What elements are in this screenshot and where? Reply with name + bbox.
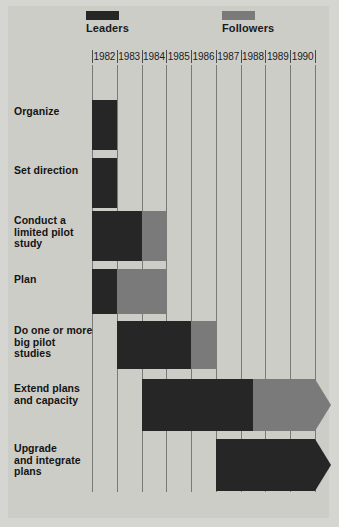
legend-swatch-followers — [222, 11, 255, 20]
bar-segment-leaders — [216, 439, 315, 491]
task-bar-row — [92, 158, 339, 208]
year-label-1988: 1988 — [241, 48, 266, 65]
task-label: Extend plans and capacity — [14, 383, 80, 406]
year-label-1986: 1986 — [191, 48, 216, 65]
bar-arrow-head — [315, 379, 331, 431]
year-tick — [241, 50, 242, 63]
year-label-1984: 1984 — [142, 48, 167, 65]
bar-segment-leaders — [142, 379, 254, 431]
task-bar-row — [92, 269, 339, 314]
bar-segment-leaders — [92, 158, 117, 208]
task-label: Conduct a limited pilot study — [14, 215, 74, 250]
task-bar-row — [92, 439, 339, 491]
year-tick — [191, 50, 192, 63]
task-label: Set direction — [14, 165, 78, 177]
year-label-1983: 1983 — [117, 48, 142, 65]
year-label-1990: 1990 — [290, 48, 315, 65]
task-bar-row — [92, 379, 339, 431]
task-label: Plan — [14, 274, 36, 286]
gantt-chart: Leaders Followers 1982198319841985198619… — [0, 0, 339, 527]
task-bar-row — [92, 211, 339, 261]
bar-segment-leaders — [92, 269, 117, 314]
bar-segment-leaders — [92, 211, 142, 261]
year-axis-header: 198219831984198519861987198819891990 — [92, 48, 315, 65]
year-label-1987: 1987 — [216, 48, 241, 65]
task-label: Upgrade and integrate plans — [14, 443, 81, 478]
year-tick — [166, 50, 167, 63]
bar-segment-followers — [253, 379, 315, 431]
year-label-1982: 1982 — [92, 48, 117, 65]
legend-label-followers: Followers — [222, 22, 274, 34]
bar-segment-followers — [117, 269, 167, 314]
year-tick — [315, 50, 316, 63]
bar-segment-followers — [191, 321, 216, 369]
task-bar-row — [92, 321, 339, 369]
year-tick — [265, 50, 266, 63]
year-tick — [290, 50, 291, 63]
legend-label-leaders: Leaders — [86, 22, 129, 34]
bar-segment-leaders — [117, 321, 191, 369]
year-tick — [216, 50, 217, 63]
legend-swatch-leaders — [86, 11, 119, 20]
year-tick — [142, 50, 143, 63]
bar-segment-followers — [142, 211, 167, 261]
bar-segment-leaders — [92, 100, 117, 150]
task-label: Do one or more big pilot studies — [14, 325, 92, 360]
task-label: Organize — [14, 106, 59, 118]
year-label-1985: 1985 — [166, 48, 191, 65]
year-tick — [117, 50, 118, 63]
year-tick — [92, 50, 93, 63]
task-bar-row — [92, 100, 339, 150]
bar-arrow-head — [315, 439, 331, 491]
year-label-1989: 1989 — [265, 48, 290, 65]
